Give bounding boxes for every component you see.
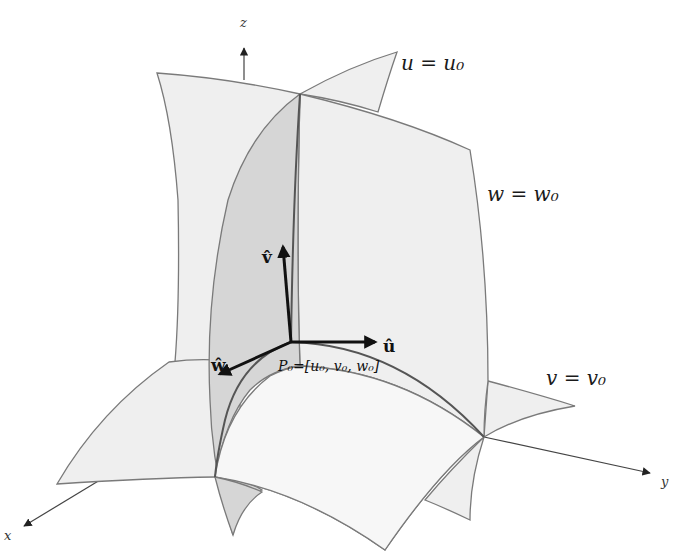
surface-u-label: u = u₀ <box>401 51 464 75</box>
x-axis <box>24 480 100 526</box>
point-p0-label: P₀=[u₀, v₀, w₀] <box>277 358 380 374</box>
curvilinear-coordinates-diagram: z y x u = u₀ w = w₀ v = v₀ û v̂ ŵ P₀=[u₀… <box>0 0 676 551</box>
x-axis-label: x <box>4 528 12 543</box>
surface-v-label: v = v₀ <box>546 366 606 390</box>
u-hat-label: û <box>383 336 395 356</box>
y-axis-label: y <box>660 474 669 489</box>
v-hat-label: v̂ <box>261 247 273 267</box>
w-hat-label: ŵ <box>210 355 226 375</box>
z-axis-label: z <box>239 15 247 30</box>
y-axis <box>484 437 650 473</box>
surface-w-label: w = w₀ <box>487 182 559 206</box>
